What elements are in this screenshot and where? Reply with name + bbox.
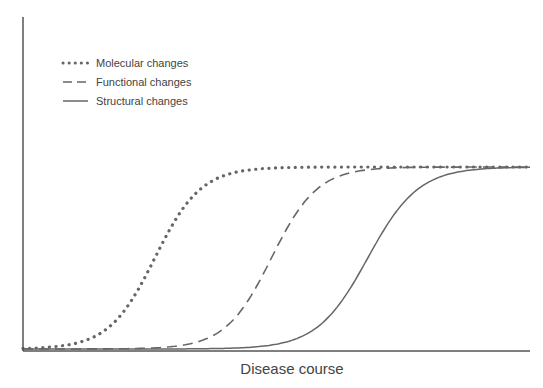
legend-label-molecular: Molecular changes bbox=[96, 57, 189, 69]
legend: Molecular changes Functional changes Str… bbox=[63, 57, 192, 107]
legend-label-functional: Functional changes bbox=[96, 76, 192, 88]
curve-structural bbox=[23, 167, 530, 349]
legend-label-structural: Structural changes bbox=[96, 95, 188, 107]
curve-functional bbox=[23, 167, 530, 349]
curves bbox=[23, 167, 530, 349]
chart: Molecular changes Functional changes Str… bbox=[0, 0, 543, 388]
x-axis-label: Disease course bbox=[240, 360, 343, 377]
curve-molecular bbox=[23, 167, 530, 348]
